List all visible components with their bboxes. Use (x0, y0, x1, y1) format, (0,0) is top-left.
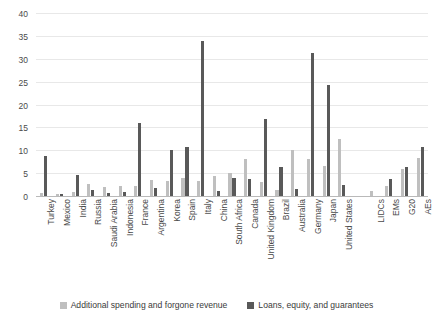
x-axis-tick-label: LIDCs (377, 199, 386, 223)
bar (264, 119, 267, 197)
bar (166, 181, 169, 197)
legend-swatch (247, 302, 254, 309)
y-axis-tick-label: 30 (19, 56, 28, 65)
bar (323, 166, 326, 197)
x-axis-tick-label: EMs (392, 199, 401, 216)
bar-group (275, 14, 282, 197)
bar (76, 175, 79, 197)
bar (87, 184, 90, 197)
bar-group (72, 14, 79, 197)
legend-swatch (60, 302, 67, 309)
legend-label: Loans, equity, and guarantees (258, 301, 373, 310)
bar (248, 179, 251, 197)
bar (228, 173, 231, 197)
bar (405, 167, 408, 197)
x-axis-tick-label: Mexico (63, 199, 72, 226)
x-axis-tick-label: Germany (314, 199, 323, 234)
bar (338, 139, 341, 197)
x-axis-tick-label: Indonesia (126, 199, 135, 236)
bar-group (213, 14, 220, 197)
bar (44, 156, 47, 197)
bar-group (401, 14, 408, 197)
y-axis-tick-label: 5 (23, 170, 28, 179)
x-axis-labels: TurkeyMexicoIndiaRussiaSaudi ArabiaIndon… (36, 199, 428, 287)
x-axis-tick-label: China (220, 199, 229, 221)
chart-title (0, 0, 433, 3)
bar (327, 85, 330, 197)
bar (232, 178, 235, 197)
x-axis-tick-label: India (79, 199, 88, 217)
bar-group (150, 14, 157, 197)
bar (311, 53, 314, 197)
bar-group (244, 14, 251, 197)
x-axis-tick-label: G20 (408, 199, 417, 215)
bar (181, 178, 184, 197)
x-axis-tick-label: Russia (94, 199, 103, 225)
bar-group (119, 14, 126, 197)
x-axis-tick-label: Spain (188, 199, 197, 221)
legend-label: Additional spending and forgone revenue (71, 301, 228, 310)
bar (389, 179, 392, 197)
x-axis-tick-label: United Kingdom (267, 199, 276, 259)
bar-group (417, 14, 424, 197)
bar-group (40, 14, 47, 197)
y-axis-tick-label: 35 (19, 33, 28, 42)
bar (279, 167, 282, 197)
bar (291, 150, 294, 197)
x-axis-tick-label: Australia (298, 199, 307, 232)
bar (307, 159, 310, 197)
bar-group (370, 14, 377, 197)
plot-area (36, 14, 428, 197)
bar-chart: 0510152025303540 TurkeyMexicoIndiaRussia… (0, 0, 433, 323)
x-axis-tick-label: Canada (251, 199, 260, 229)
bar (213, 176, 216, 198)
x-axis-tick-label: Saudi Arabia (110, 199, 119, 247)
bar (244, 159, 247, 197)
x-axis-tick-label: Japan (329, 199, 338, 222)
x-axis-tick-label: France (141, 199, 150, 225)
bar-group (87, 14, 94, 197)
bar-group (338, 14, 345, 197)
x-axis-tick-label: South Africa (235, 199, 244, 245)
bar-group (181, 14, 188, 197)
bar (260, 182, 263, 197)
x-axis-tick-label: United States (345, 199, 354, 250)
y-axis-tick-label: 40 (19, 10, 28, 19)
bar-group (385, 14, 392, 197)
bar (201, 41, 204, 197)
bar (417, 158, 420, 197)
y-axis-tick-label: 15 (19, 124, 28, 133)
bar (150, 180, 153, 197)
legend-item[interactable]: Additional spending and forgone revenue (60, 301, 228, 310)
x-axis-tick-label: Korea (173, 199, 182, 222)
bar (421, 147, 424, 197)
bar (185, 147, 188, 197)
bar-group (103, 14, 110, 197)
x-axis-tick-label: AEs (424, 199, 433, 215)
bar (401, 169, 404, 197)
y-axis-tick-label: 10 (19, 147, 28, 156)
x-axis-tick-label: Brazil (282, 199, 291, 220)
bar-group (166, 14, 173, 197)
x-axis-tick-label: Italy (204, 199, 213, 215)
bar-group (228, 14, 235, 197)
bar-group (56, 14, 63, 197)
y-axis: 0510152025303540 (0, 14, 32, 197)
x-axis-line (36, 196, 428, 197)
bar-group (134, 14, 141, 197)
bar-group (323, 14, 330, 197)
bar (197, 181, 200, 197)
bar-group (291, 14, 298, 197)
y-axis-tick-label: 25 (19, 78, 28, 87)
x-axis-tick-label: Argentina (157, 199, 166, 235)
x-axis-tick-label: Turkey (47, 199, 56, 225)
chart-legend: Additional spending and forgone revenueL… (0, 297, 433, 313)
bar-series-container (36, 14, 428, 197)
bar-group (307, 14, 314, 197)
y-axis-tick-label: 0 (23, 193, 28, 202)
y-axis-tick-label: 20 (19, 101, 28, 110)
bar-group (260, 14, 267, 197)
legend-item[interactable]: Loans, equity, and guarantees (247, 301, 373, 310)
bar-group (197, 14, 204, 197)
bar (170, 150, 173, 197)
